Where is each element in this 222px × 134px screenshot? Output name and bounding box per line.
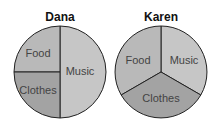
dana-food-label: Food <box>25 47 50 59</box>
karen-pie-chart: Karen Food Music Clothes <box>115 10 207 118</box>
dana-music-label: Music <box>66 65 95 77</box>
karen-clothes-label: Clothes <box>142 92 180 104</box>
pie-charts: Dana Food Music Clothes Karen Food Music… <box>0 0 222 134</box>
karen-food-label: Food <box>125 54 150 66</box>
dana-title: Dana <box>45 10 75 24</box>
dana-clothes-label: Clothes <box>19 84 57 96</box>
karen-title: Karen <box>144 10 178 24</box>
karen-music-label: Music <box>170 54 199 66</box>
dana-pie-chart: Dana Food Music Clothes <box>14 10 106 118</box>
